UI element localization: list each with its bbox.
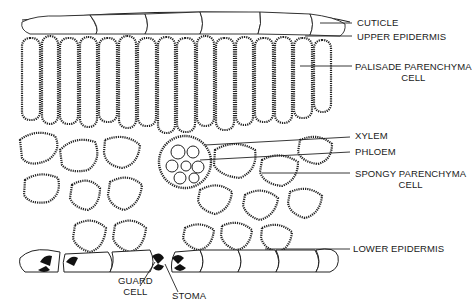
- palisade-label-line1: PALISADE PARENCHYMA: [355, 61, 472, 72]
- cuticle-label: CUTICLE: [357, 17, 398, 28]
- phloem-label: PHLOEM: [355, 146, 396, 157]
- spongy-label-line2: CELL: [355, 179, 466, 190]
- guard-label-line2: CELL: [118, 286, 153, 297]
- guard-label-line1: GUARD: [118, 275, 153, 286]
- vascular-bundle: [159, 136, 211, 188]
- palisade-label-line2: CELL: [355, 72, 472, 83]
- spongy-parenchyma-cell-label: SPONGY PARENCHYMA CELL: [355, 168, 466, 190]
- spongy-label-line1: SPONGY PARENCHYMA: [355, 168, 466, 179]
- guard-cell-label: GUARD CELL: [118, 275, 153, 297]
- lower-epidermis-label: LOWER EPIDERMIS: [353, 243, 444, 254]
- leaf-cross-section-diagram: [0, 0, 474, 307]
- palisade-parenchyma-layer: [22, 36, 331, 133]
- palisade-parenchyma-cell-label: PALISADE PARENCHYMA CELL: [355, 61, 472, 83]
- stoma-label: STOMA: [172, 290, 206, 301]
- upper-epidermis-layer: [22, 12, 350, 36]
- upper-epidermis-label: UPPER EPIDERMIS: [357, 31, 446, 42]
- xylem-label: XYLEM: [355, 130, 388, 141]
